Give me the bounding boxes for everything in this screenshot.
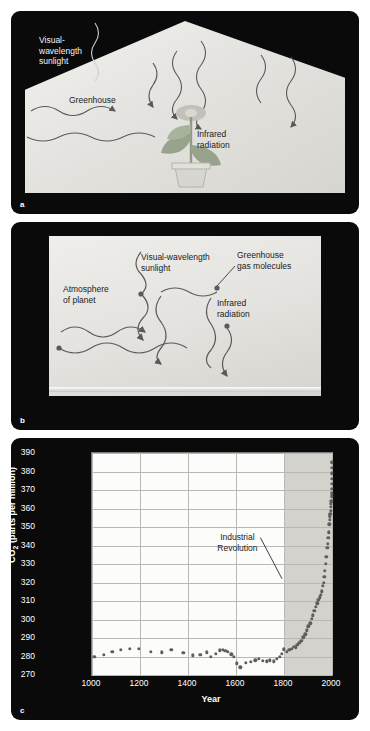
x-axis-tick-label: 1400	[178, 678, 197, 688]
y-axis-tick-label: 340	[11, 540, 35, 550]
data-point	[149, 650, 152, 653]
data-point	[214, 652, 217, 655]
gridline-horizontal	[92, 583, 332, 584]
data-point	[330, 482, 333, 485]
y-axis-tick-label: 290	[11, 632, 35, 642]
label-greenhouse: Greenhouse	[69, 95, 116, 106]
data-point	[235, 661, 238, 664]
gridline-vertical	[284, 453, 285, 675]
plot-area	[91, 452, 333, 676]
y-axis-tick-label: 280	[11, 651, 35, 661]
x-axis-tick-label: 1600	[226, 678, 245, 688]
gridline-horizontal	[92, 546, 332, 547]
gridline-horizontal	[92, 564, 332, 565]
label-infrared-radiation-a: Infrared radiation	[197, 129, 230, 150]
gridline-vertical	[236, 453, 237, 675]
label-atmosphere-of-planet: Atmosphere of planet	[63, 284, 109, 305]
y-axis-tick-label: 330	[11, 558, 35, 568]
gridline-horizontal	[92, 472, 332, 473]
x-axis-tick-label: 1800	[274, 678, 293, 688]
panel-letter-a: a	[20, 200, 24, 209]
data-point	[330, 466, 333, 469]
gridline-vertical	[332, 453, 333, 675]
data-point	[330, 477, 333, 480]
label-infrared-radiation-b: Infrared radiation	[217, 298, 250, 319]
data-point	[249, 660, 252, 663]
x-axis-title: Year	[201, 694, 220, 704]
label-visual-sunlight-a: Visual- wavelength sunlight	[39, 35, 82, 67]
x-axis-tick-label: 1000	[82, 678, 101, 688]
gridline-vertical	[92, 453, 93, 675]
panel-letter-b: b	[20, 416, 25, 425]
y-axis-tick-label: 270	[11, 669, 35, 679]
atmosphere-illustration: Atmosphere of planet Visual-wavelength s…	[49, 236, 321, 396]
y-axis-tick-label: 380	[11, 466, 35, 476]
y-axis-tick-label: 360	[11, 503, 35, 513]
gridline-horizontal	[92, 638, 332, 639]
gridline-vertical	[140, 453, 141, 675]
gridline-vertical	[188, 453, 189, 675]
data-point	[239, 666, 242, 669]
gridline-horizontal	[92, 675, 332, 676]
data-point	[330, 487, 333, 490]
gridline-horizontal	[92, 509, 332, 510]
data-point	[169, 648, 172, 651]
data-point	[160, 651, 163, 654]
data-point	[205, 651, 208, 654]
panel-c-co2-chart: CO2 (parts per million) Year 27028029030…	[11, 438, 359, 720]
label-greenhouse-gas-molecules: Greenhouse gas molecules	[237, 250, 291, 271]
gridline-horizontal	[92, 527, 332, 528]
data-point	[272, 660, 275, 663]
data-point	[111, 650, 114, 653]
greenhouse-effect-figure: Visual- wavelength sunlight Greenhouse I…	[0, 0, 370, 731]
co2-chart: CO2 (parts per million) Year 27028029030…	[11, 438, 359, 720]
gridline-horizontal	[92, 453, 332, 454]
data-point	[330, 472, 333, 475]
panel-a-greenhouse-diagram: Visual- wavelength sunlight Greenhouse I…	[11, 11, 359, 214]
annotation-industrial-revolution: Industrial Revolution	[217, 532, 257, 554]
panel-b-atmosphere-diagram: Atmosphere of planet Visual-wavelength s…	[11, 222, 359, 430]
y-axis-tick-label: 300	[11, 614, 35, 624]
gridline-horizontal	[92, 620, 332, 621]
greenhouse-illustration: Visual- wavelength sunlight Greenhouse I…	[25, 21, 345, 193]
x-axis-tick-label: 1200	[130, 678, 149, 688]
data-point	[181, 651, 184, 654]
data-point	[278, 655, 281, 658]
x-axis-tick-label: 2000	[322, 678, 341, 688]
planet-surface	[49, 387, 321, 392]
panel-letter-c: c	[20, 706, 24, 715]
data-point	[93, 655, 96, 658]
data-point	[119, 648, 122, 651]
y-axis-tick-label: 350	[11, 521, 35, 531]
label-visual-sunlight-b: Visual-wavelength sunlight	[141, 252, 210, 273]
y-axis-tick-label: 370	[11, 484, 35, 494]
data-point	[128, 647, 131, 650]
y-axis-tick-label: 320	[11, 577, 35, 587]
y-axis-tick-label: 390	[11, 447, 35, 457]
y-axis-tick-label: 310	[11, 595, 35, 605]
data-point	[244, 661, 247, 664]
data-point	[209, 655, 212, 658]
data-point	[330, 461, 333, 464]
data-point	[257, 657, 260, 660]
gridline-horizontal	[92, 601, 332, 602]
gridline-horizontal	[92, 490, 332, 491]
